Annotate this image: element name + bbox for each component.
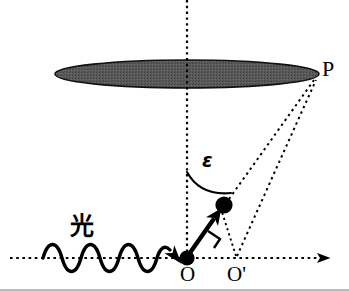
- segment-Oprime-to-dipole-dotted: [221, 209, 236, 256]
- incident-light-wave: [43, 245, 170, 272]
- ray-Oprime-to-P-dotted: [237, 80, 316, 256]
- physics-diagram-figure: P O O' ε 光: [0, 0, 349, 291]
- right-angle-marker: [208, 231, 220, 248]
- label-observation-point-P: P: [322, 58, 334, 80]
- diagram-canvas: [0, 0, 349, 291]
- ray-dipole-to-P-dotted: [229, 80, 314, 199]
- dipole-moment-arrow: [187, 220, 213, 257]
- dipole-particle-dot: [215, 196, 232, 213]
- label-angle-epsilon: ε: [202, 151, 213, 170]
- label-origin-prime-O: O': [227, 264, 246, 285]
- label-incident-light-kanji: 光: [70, 214, 94, 238]
- label-origin-O: O: [180, 264, 195, 285]
- angle-epsilon-arc: [187, 172, 231, 193]
